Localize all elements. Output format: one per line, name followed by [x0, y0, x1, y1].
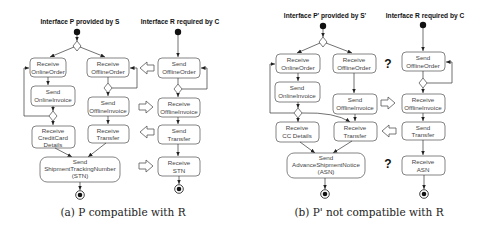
node-receive-onlineorder: Receive OnlineOrder — [30, 58, 66, 77]
title-interface-r: Interface R required by C — [141, 18, 220, 26]
svg-text:Receive: Receive — [168, 100, 191, 107]
svg-text:Receive: Receive — [42, 127, 65, 134]
svg-text:Receive: Receive — [97, 127, 120, 134]
svg-text:Transfer: Transfer — [412, 131, 435, 138]
node-r-send-offlineorder: Send OfflineOrder — [402, 52, 445, 71]
svg-text:ShipmentTrackingNumber: ShipmentTrackingNumber — [44, 165, 116, 172]
svg-text:(STN): (STN) — [72, 172, 89, 179]
node-send-stn: Send ShipmentTrackingNumber (STN) — [40, 157, 120, 182]
svg-text:Details: Details — [44, 141, 63, 148]
svg-text:OnlineOrder: OnlineOrder — [31, 68, 65, 75]
svg-text:AdvanceShipmentNotice: AdvanceShipmentNotice — [292, 161, 360, 168]
svg-text:OfflineOrder: OfflineOrder — [406, 62, 440, 69]
node-send-asn: Send AdvanceShipmentNotice (ASN) — [287, 153, 365, 178]
message-arrow-right-icon — [139, 160, 153, 172]
svg-text:Send: Send — [348, 96, 363, 103]
node-receive-transfer: Receive Transfer — [334, 122, 377, 141]
mismatch-question-mark: ? — [384, 57, 391, 71]
message-arrow-right-icon — [139, 101, 153, 113]
decision-diamond-icon — [319, 37, 327, 47]
svg-text:OnlineOrder: OnlineOrder — [281, 64, 315, 71]
message-arrow-left-icon — [140, 62, 154, 74]
node-receive-offlineorder: Receive OfflineOrder — [87, 58, 129, 77]
svg-text:Send: Send — [290, 84, 305, 91]
svg-text:Send: Send — [46, 88, 61, 95]
decision-diamond-icon — [419, 78, 427, 88]
decision-diamond-icon — [174, 84, 182, 94]
node-send-offlineinvoice: Send OfflineInvoice — [333, 94, 377, 114]
start-node-icon — [175, 29, 181, 35]
svg-text:Send: Send — [101, 99, 116, 106]
node-receive-offlineorder: Receive OfflineOrder — [333, 54, 376, 73]
svg-text:Receive: Receive — [412, 158, 435, 165]
diagram-canvas: Interface P provided by S Interface R re… — [0, 0, 483, 227]
svg-text:STN: STN — [173, 167, 185, 174]
node-r-send-transfer: Send Transfer — [402, 122, 445, 140]
message-arrow-left-icon — [382, 125, 396, 137]
node-r-send-transfer: Send Transfer — [158, 125, 200, 144]
node-receive-cc-details: Receive CC Details — [276, 122, 319, 142]
svg-text:OfflineInvoice: OfflineInvoice — [404, 104, 442, 111]
title-interface-p-prime: Interface P' provided by S' — [284, 12, 367, 20]
svg-text:Send: Send — [416, 124, 431, 131]
node-r-receive-offlineinvoice: Receive OfflineInvoice — [158, 98, 200, 117]
svg-text:Send: Send — [73, 158, 88, 165]
svg-text:Send: Send — [319, 154, 334, 161]
node-r-receive-offlineinvoice: Receive OfflineInvoice — [402, 94, 445, 113]
svg-text:OfflineInvoice: OfflineInvoice — [89, 107, 127, 114]
svg-text:CC Details: CC Details — [282, 132, 312, 139]
svg-text:Receive: Receive — [97, 60, 120, 67]
start-node-icon — [320, 23, 326, 29]
mismatch-question-mark: ? — [384, 157, 391, 171]
svg-text:Receive: Receive — [343, 56, 366, 63]
node-r-receive-stn: Receive STN — [158, 157, 200, 176]
svg-text:OfflineOrder: OfflineOrder — [337, 64, 371, 71]
decision-diamond-icon — [104, 83, 112, 93]
start-node-icon — [420, 22, 426, 28]
svg-text:OfflineOrder: OfflineOrder — [162, 68, 196, 75]
svg-text:OfflineInvoice: OfflineInvoice — [336, 104, 374, 111]
svg-text:Receive: Receive — [37, 60, 60, 67]
svg-text:Send: Send — [172, 127, 187, 134]
svg-text:(ASN): (ASN) — [318, 168, 335, 175]
node-receive-creditcard-details: Receive CreditCard Details — [32, 126, 75, 148]
svg-text:Transfer: Transfer — [344, 132, 367, 139]
svg-text:OfflineInvoice: OfflineInvoice — [160, 108, 198, 115]
svg-text:Transfer: Transfer — [97, 134, 120, 141]
node-receive-onlineorder: Receive OnlineOrder — [276, 54, 320, 73]
figure: Interface P provided by S Interface R re… — [0, 0, 483, 227]
svg-text:Receive: Receive — [286, 124, 309, 131]
message-arrow-left-icon — [140, 126, 154, 138]
node-send-onlineinvoice: Send OnlineInvoice — [31, 86, 75, 106]
svg-text:CreditCard: CreditCard — [38, 134, 68, 141]
message-arrow-right-icon — [381, 97, 395, 109]
caption-a: (a) P compatible with R — [60, 206, 186, 218]
svg-text:OnlineInvoice: OnlineInvoice — [278, 92, 316, 99]
title-interface-r: Interface R required by C — [386, 12, 465, 20]
svg-text:OfflineOrder: OfflineOrder — [91, 68, 125, 75]
decision-diamond-icon — [49, 111, 57, 121]
node-r-receive-asn: Receive ASN — [402, 156, 445, 175]
svg-text:OnlineInvoice: OnlineInvoice — [34, 96, 72, 103]
node-receive-transfer: Receive Transfer — [88, 125, 129, 143]
svg-text:Receive: Receive — [287, 56, 310, 63]
title-interface-p: Interface P provided by S — [40, 18, 120, 26]
svg-text:Send: Send — [172, 60, 187, 67]
start-node-icon — [74, 29, 80, 35]
caption-b: (b) P' not compatible with R — [294, 206, 444, 218]
decision-diamond-icon — [73, 41, 81, 51]
svg-text:Transfer: Transfer — [168, 135, 191, 142]
svg-text:Receive: Receive — [344, 124, 367, 131]
node-r-send-offlineorder: Send OfflineOrder — [158, 58, 200, 78]
svg-text:Receive: Receive — [168, 159, 191, 166]
svg-text:ASN: ASN — [417, 166, 430, 173]
node-send-offlineinvoice: Send OfflineInvoice — [88, 97, 129, 116]
panel-b: Interface P' provided by S' Interface R … — [270, 12, 464, 218]
svg-text:Receive: Receive — [412, 96, 435, 103]
svg-text:Send: Send — [416, 54, 431, 61]
decision-diamond-icon — [294, 108, 302, 118]
node-send-onlineinvoice: Send OnlineInvoice — [275, 82, 320, 102]
panel-a: Interface P provided by S Interface R re… — [24, 18, 219, 218]
